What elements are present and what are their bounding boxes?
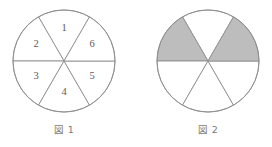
figure-caption: 図 1 [54, 124, 74, 135]
sector-number-label: 3 [33, 70, 38, 81]
figure-board: 123456図 1図 2 [0, 0, 272, 147]
sector-number-label: 5 [89, 70, 94, 81]
sector-number-label: 4 [61, 86, 67, 97]
pie-sector-diagram: 123456図 1図 2 [0, 0, 272, 147]
sector-number-label: 1 [61, 22, 66, 33]
figure-2: 図 2 [157, 10, 259, 135]
sector-number-label: 2 [33, 38, 38, 49]
sector-number-label: 6 [89, 38, 94, 49]
figure-1: 123456図 1 [13, 10, 115, 135]
figure-caption: 図 2 [198, 124, 218, 135]
